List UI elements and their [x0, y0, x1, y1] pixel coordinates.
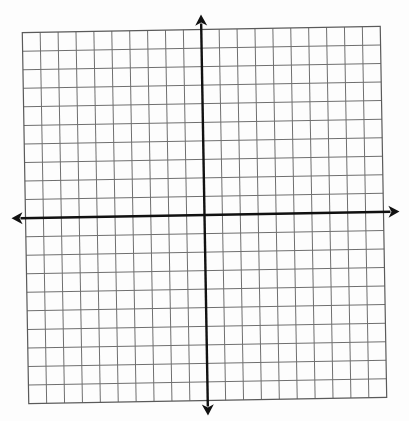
grid-group [8, 11, 403, 419]
coordinate-plane [0, 0, 409, 421]
